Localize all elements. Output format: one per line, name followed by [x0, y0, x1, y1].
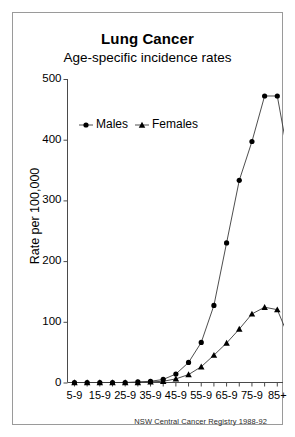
- y-axis-ticks: [64, 80, 68, 384]
- data-point-females: [249, 311, 256, 317]
- data-point-males: [199, 340, 204, 345]
- x-axis-ticks: [74, 383, 277, 387]
- plot-area: [13, 13, 284, 426]
- series-lines: [74, 96, 284, 383]
- axis-lines: [68, 79, 284, 383]
- data-point-males: [186, 360, 191, 365]
- data-point-males: [249, 139, 254, 144]
- data-point-females: [185, 371, 192, 377]
- data-point-males: [211, 303, 216, 308]
- series-markers: [71, 93, 284, 385]
- data-point-males: [237, 178, 242, 183]
- data-point-males: [224, 240, 229, 245]
- data-point-females: [261, 304, 268, 310]
- source-note: NSW Central Cancer Registry 1988-92: [134, 417, 267, 426]
- series-line-males: [74, 96, 284, 383]
- data-point-males: [275, 93, 280, 98]
- figure-frame: Lung Cancer Age-specific incidence rates…: [12, 12, 283, 425]
- data-point-males: [262, 93, 267, 98]
